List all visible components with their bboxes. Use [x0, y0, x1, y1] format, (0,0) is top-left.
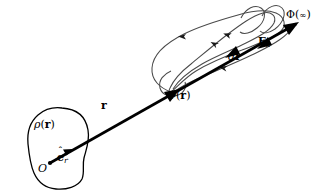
integration-path-outer	[152, 11, 284, 92]
e-subscript: r	[64, 156, 68, 165]
figure-canvas: Φ(∞) Φ(r) dr Fa r ρ(r) ˆer O	[0, 0, 334, 196]
phi-symbol: Φ	[167, 89, 176, 102]
position-vector-tip-arrowhead	[283, 22, 299, 35]
r-vector-symbol: r	[235, 50, 241, 63]
label-applied-force: Fa	[258, 36, 271, 49]
paren-close: )	[51, 118, 55, 131]
phi-symbol: Φ	[286, 8, 295, 21]
circumflex-accent: ˆ	[58, 147, 62, 156]
label-unit-radial-vector: ˆer	[57, 152, 68, 165]
force-subscript: a	[266, 40, 271, 49]
label-potential-at-infinity: Φ(∞)	[286, 9, 311, 20]
paren-close: )	[186, 89, 190, 102]
label-position-vector: r	[101, 100, 107, 111]
path-arrowhead-inner-upper	[209, 39, 219, 48]
label-charge-density: ρ(r)	[34, 119, 55, 130]
force-symbol: F	[258, 35, 266, 48]
label-potential-at-r: Φ(r)	[167, 90, 190, 101]
differential-d: d	[228, 50, 235, 63]
integration-path-inner	[169, 13, 275, 96]
origin-dot	[48, 161, 52, 165]
label-displacement-element: dr	[228, 51, 241, 62]
paren-close: )	[306, 8, 310, 21]
label-origin: O	[38, 163, 47, 174]
e-hat-group: ˆe	[57, 152, 64, 163]
